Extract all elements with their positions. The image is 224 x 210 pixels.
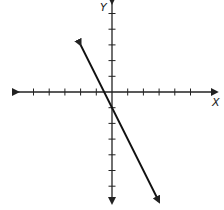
data-line [81,45,160,202]
x-axis-label: X [211,96,220,109]
axes [18,3,217,203]
line-series [81,45,160,202]
y-axis-label: Y [100,1,108,14]
coordinate-plane: X Y [0,0,224,210]
